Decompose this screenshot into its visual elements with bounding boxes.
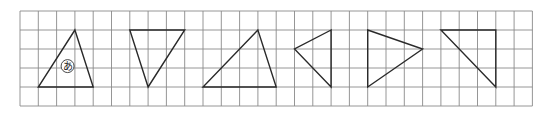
triangle-2 — [130, 30, 185, 87]
grid-diagram: あ — [0, 0, 552, 114]
grid-lines — [20, 11, 532, 106]
triangle-label: あ — [63, 61, 73, 72]
triangle-a — [38, 30, 93, 87]
grid-svg: あ — [0, 0, 552, 114]
triangle-6 — [441, 30, 496, 87]
triangles: あ — [38, 30, 496, 87]
triangle-5 — [368, 30, 423, 87]
